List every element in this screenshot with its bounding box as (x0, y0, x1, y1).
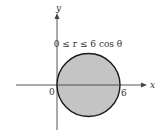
x-axis-label: x (150, 80, 155, 90)
y-axis-arrow-icon (55, 13, 60, 19)
region-inequality-label: 0 ≤ r ≤ 6 cos θ (54, 39, 123, 49)
polar-region-diagram: x y 0 6 0 ≤ r ≤ 6 cos θ (0, 0, 163, 138)
origin-label: 0 (49, 87, 55, 97)
x-axis-arrow-icon (141, 83, 147, 88)
x-tick-label-6: 6 (121, 88, 127, 98)
y-axis-label: y (55, 3, 62, 13)
